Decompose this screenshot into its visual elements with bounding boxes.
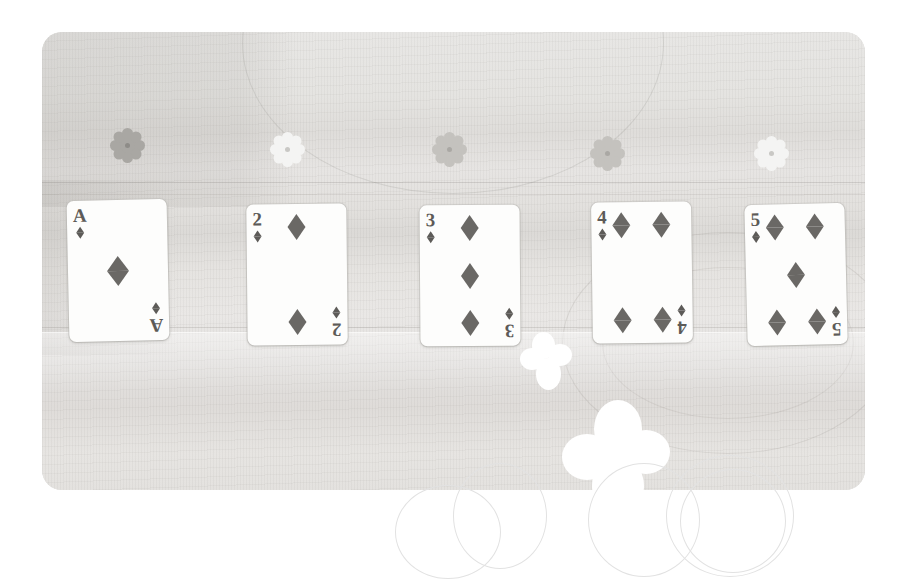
- diamond-pip-icon: [653, 307, 671, 320]
- card-pip-field: [591, 201, 693, 343]
- flower-bead-icon: [270, 132, 304, 166]
- flower-bead-icon: [432, 132, 466, 166]
- playing-card-four-of-diamonds[interactable]: 44: [591, 201, 693, 343]
- flower-bead-petal: [610, 139, 621, 150]
- diamond-pip-icon: [652, 211, 670, 224]
- table-seam-2: [42, 194, 865, 195]
- playing-card-two-of-diamonds[interactable]: 22: [246, 203, 347, 345]
- diamond-pip-icon: [461, 310, 479, 323]
- playing-card-five-of-diamonds[interactable]: 55: [744, 203, 847, 346]
- diamond-pip-icon: [287, 213, 305, 226]
- card-photo: AA22334455: [42, 32, 865, 490]
- diamond-pip-icon: [107, 255, 129, 270]
- flower-bead-petal: [452, 135, 463, 146]
- card-pip-field: [744, 203, 847, 346]
- diamond-pip-icon: [808, 309, 826, 322]
- diamond-pip-icon: [806, 213, 824, 226]
- flower-bead-center: [285, 147, 290, 152]
- diamond-pip-icon: [461, 262, 479, 275]
- butterfly-outline-wing-left: [395, 485, 501, 579]
- card-pip-field: [67, 199, 170, 342]
- diamond-pip-icon: [768, 310, 786, 323]
- butterfly-large: [562, 400, 670, 490]
- butterfly-small: [520, 332, 572, 390]
- flower-bead-icon: [754, 136, 788, 170]
- diamond-pip-icon: [766, 214, 784, 227]
- card-pip-field: [246, 203, 347, 345]
- flower-bead-center: [769, 151, 774, 156]
- flower-bead-icon: [590, 136, 624, 170]
- flower-bead-petal: [130, 131, 141, 142]
- diamond-pip-icon: [787, 261, 805, 274]
- flower-bead-center: [447, 147, 452, 152]
- diamond-pip-icon: [612, 212, 630, 225]
- flower-bead-petal: [774, 139, 785, 150]
- playing-card-three-of-diamonds[interactable]: 33: [420, 205, 521, 347]
- table-seam-1: [42, 182, 865, 183]
- card-pip-field: [420, 205, 521, 347]
- butterfly-wing-bottom-right: [536, 358, 561, 390]
- diamond-pip-icon: [288, 309, 306, 322]
- diamond-pip-icon: [613, 308, 631, 321]
- diamond-pip-icon: [461, 214, 479, 227]
- flower-bead-petal: [290, 135, 301, 146]
- playing-card-ace-of-diamonds[interactable]: AA: [67, 199, 170, 342]
- flower-bead-icon: [110, 128, 144, 162]
- flower-bead-center: [125, 143, 130, 148]
- flower-bead-center: [605, 151, 610, 156]
